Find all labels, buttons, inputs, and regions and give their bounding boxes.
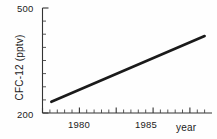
- x-tick-label-1980: 1980: [68, 119, 90, 130]
- y-tick-label-200: 200: [17, 109, 33, 120]
- data-line-cfc12: [51, 36, 204, 102]
- y-axis-title: CFC-12 (pptv): [14, 25, 25, 111]
- chart-figure: CFC-12 (pptv) 500 200 1980 1985 year: [0, 0, 217, 139]
- x-axis-title: year: [176, 122, 196, 133]
- x-tick-label-1985: 1985: [135, 119, 157, 130]
- y-tick-label-500: 500: [17, 3, 33, 14]
